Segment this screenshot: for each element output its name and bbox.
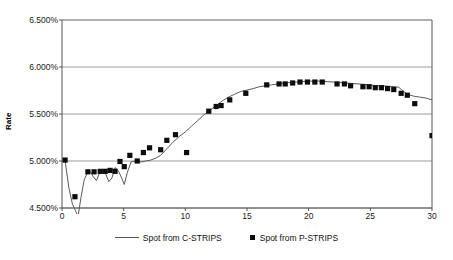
plot-area <box>0 0 453 260</box>
y-axis-tick: 5.500% <box>10 110 58 119</box>
x-axis-tick: 0 <box>52 212 72 221</box>
x-axis-tick: 20 <box>299 212 319 221</box>
legend-entry[interactable]: Spot from C-STRIPS <box>115 232 222 243</box>
x-axis-tick: 5 <box>114 212 134 221</box>
scatter-marker-p-strips <box>206 109 211 114</box>
scatter-marker-p-strips <box>227 97 232 102</box>
scatter-marker-p-strips <box>72 194 77 199</box>
scatter-marker-p-strips <box>122 164 127 169</box>
scatter-marker-p-strips <box>297 79 302 84</box>
scatter-marker-p-strips <box>385 86 390 91</box>
chart-container: Rate 6.500%6.000%5.500%5.000%4.500% 0510… <box>0 0 453 260</box>
scatter-marker-p-strips <box>173 132 178 137</box>
scatter-marker-p-strips <box>219 103 224 108</box>
scatter-marker-p-strips <box>379 85 384 90</box>
legend-label: Spot from C-STRIPS <box>143 233 222 243</box>
y-axis-tick-labels: 6.500%6.000%5.500%5.000%4.500% <box>8 0 58 260</box>
scatter-marker-p-strips <box>98 169 103 174</box>
x-axis-tick: 15 <box>237 212 257 221</box>
y-axis-tick: 4.500% <box>10 204 58 213</box>
scatter-marker-p-strips <box>429 133 434 138</box>
scatter-marker-p-strips <box>348 83 353 88</box>
scatter-marker-p-strips <box>127 153 132 158</box>
scatter-marker-p-strips <box>103 169 108 174</box>
y-axis-tick: 5.000% <box>10 157 58 166</box>
scatter-marker-p-strips <box>243 91 248 96</box>
scatter-marker-p-strips <box>305 79 310 84</box>
legend-label: Spot from P-STRIPS <box>260 233 338 243</box>
x-axis-tick: 10 <box>175 212 195 221</box>
scatter-marker-p-strips <box>214 104 219 109</box>
scatter-marker-p-strips <box>264 82 269 87</box>
scatter-marker-p-strips <box>108 168 113 173</box>
scatter-marker-p-strips <box>276 81 281 86</box>
y-axis-tick: 6.500% <box>10 16 58 25</box>
scatter-marker-p-strips <box>373 85 378 90</box>
scatter-marker-p-strips <box>62 157 67 162</box>
scatter-marker-p-strips <box>135 158 140 163</box>
scatter-marker-p-strips <box>283 81 288 86</box>
line-series-c-strips <box>65 81 432 216</box>
scatter-marker-p-strips <box>91 169 96 174</box>
legend-entry[interactable]: Spot from P-STRIPS <box>250 232 338 243</box>
scatter-marker-p-strips <box>334 81 339 86</box>
scatter-marker-p-strips <box>141 150 146 155</box>
scatter-marker-p-strips <box>412 101 417 106</box>
scatter-marker-p-strips <box>147 145 152 150</box>
scatter-marker-p-strips <box>320 79 325 84</box>
x-axis-tick: 25 <box>360 212 380 221</box>
scatter-marker-p-strips <box>290 80 295 85</box>
scatter-marker-p-strips <box>184 150 189 155</box>
series-group <box>62 79 434 216</box>
scatter-marker-p-strips <box>164 138 169 143</box>
scatter-marker-p-strips <box>312 79 317 84</box>
scatter-marker-p-strips <box>405 93 410 98</box>
scatter-marker-p-strips <box>360 84 365 89</box>
scatter-marker-p-strips <box>399 91 404 96</box>
chart-legend: Spot from C-STRIPSSpot from P-STRIPS <box>0 232 453 243</box>
scatter-marker-p-strips <box>117 159 122 164</box>
scatter-marker-p-strips <box>112 169 117 174</box>
legend-square-icon <box>250 235 255 240</box>
scatter-marker-p-strips <box>367 84 372 89</box>
scatter-marker-p-strips <box>391 87 396 92</box>
x-axis-tick: 30 <box>422 212 442 221</box>
scatter-marker-p-strips <box>158 147 163 152</box>
scatter-marker-p-strips <box>342 81 347 86</box>
y-axis-tick: 6.000% <box>10 63 58 72</box>
scatter-marker-p-strips <box>85 169 90 174</box>
legend-line-icon <box>115 237 139 238</box>
